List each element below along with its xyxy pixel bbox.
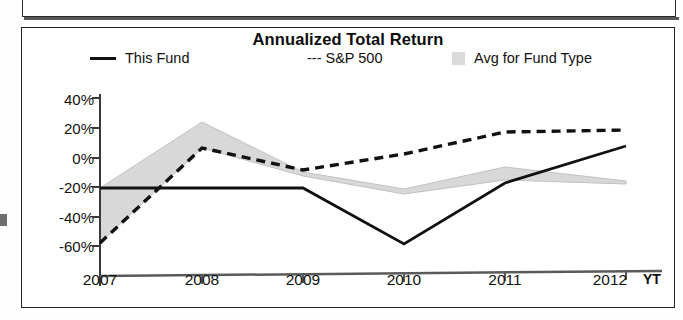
x-tick-label-2011: 2011 bbox=[473, 271, 537, 289]
x-tick-label-2008: 2008 bbox=[170, 271, 234, 289]
x-axis-labels: 2007 2008 2009 2010 2011 2012 bbox=[22, 271, 676, 297]
x-tick-label-2007: 2007 bbox=[68, 271, 132, 289]
chart-frame: Annualized Total Return This Fund --- S&… bbox=[21, 27, 675, 308]
fund-performance-chart-panel: Annualized Total Return This Fund --- S&… bbox=[0, 0, 683, 320]
scan-artifact-speck bbox=[0, 214, 7, 226]
upper-panel-edge-shadow bbox=[24, 17, 679, 20]
x-tick-label-2010: 2010 bbox=[372, 271, 436, 289]
x-tick-label-2012: 2012 bbox=[578, 271, 642, 289]
plot-area: 40% 20% 0% -20% -40% -60% bbox=[22, 28, 676, 309]
x-axis-ytd-label: YT bbox=[643, 271, 661, 287]
x-tick-label-2009: 2009 bbox=[271, 271, 335, 289]
avg-fund-type-band bbox=[100, 122, 626, 243]
chart-plot-svg bbox=[22, 28, 676, 309]
upper-panel-fragment bbox=[22, 0, 676, 17]
